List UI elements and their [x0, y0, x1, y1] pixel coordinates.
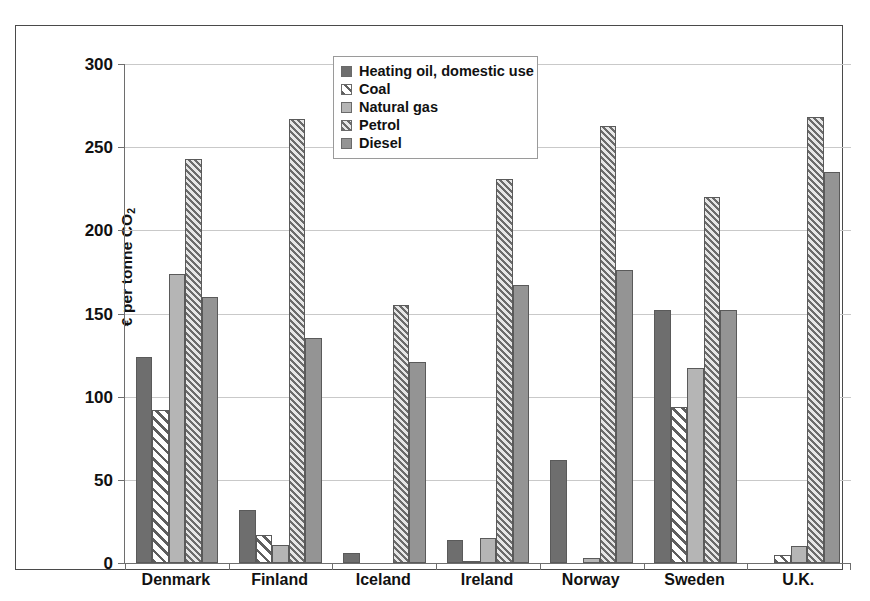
- x-axis-label: Norway: [539, 571, 643, 589]
- bar-heating: [136, 357, 153, 563]
- legend-swatch-heating-icon: [341, 66, 352, 77]
- legend-label: Coal: [359, 82, 390, 97]
- bar-diesel: [202, 297, 219, 563]
- y-axis-tick-label: 250: [85, 139, 113, 156]
- bar-gas: [791, 546, 808, 563]
- legend-item: Coal: [341, 80, 531, 98]
- x-axis-label: Ireland: [435, 571, 539, 589]
- y-axis-tick-label: 300: [85, 56, 113, 73]
- bar-heating: [550, 460, 567, 563]
- y-axis-tick-label: 100: [85, 388, 113, 405]
- bar-group: [540, 64, 644, 563]
- bar-coal: [774, 555, 791, 563]
- bar-group: [747, 64, 851, 563]
- bar-gas: [480, 538, 497, 563]
- bar-coal: [463, 561, 480, 563]
- legend-label: Petrol: [359, 118, 400, 133]
- bar-diesel: [720, 310, 737, 563]
- chart-figure: € per tonne CO2 300250200150100500 Denma…: [0, 0, 870, 601]
- bar-diesel: [616, 270, 633, 563]
- x-axis-labels: DenmarkFinlandIcelandIrelandNorwaySweden…: [124, 571, 850, 589]
- bar-heating: [239, 510, 256, 563]
- bar-gas: [272, 545, 289, 563]
- y-axis-tick-label: 0: [104, 555, 113, 572]
- x-axis-label: Denmark: [124, 571, 228, 589]
- bar-gas: [687, 368, 704, 563]
- bar-coal: [256, 535, 273, 563]
- legend-item: Diesel: [341, 134, 531, 152]
- bar-petrol: [393, 305, 410, 563]
- bar-petrol: [496, 179, 513, 563]
- y-axis-tick-label: 150: [85, 305, 113, 322]
- legend-item: Natural gas: [341, 98, 531, 116]
- bar-petrol: [807, 117, 824, 563]
- legend-item: Heating oil, domestic use: [341, 62, 531, 80]
- bar-diesel: [409, 362, 426, 563]
- y-axis-tick: [118, 230, 125, 231]
- bar-heating: [343, 553, 360, 563]
- legend-swatch-petrol-icon: [341, 120, 352, 131]
- chart-legend: Heating oil, domestic useCoalNatural gas…: [333, 56, 538, 159]
- legend-label: Heating oil, domestic use: [359, 64, 534, 79]
- y-axis-tick-label: 200: [85, 222, 113, 239]
- bar-petrol: [185, 159, 202, 563]
- legend-item: Petrol: [341, 116, 531, 134]
- legend-label: Natural gas: [359, 100, 438, 115]
- bar-petrol: [289, 119, 306, 563]
- y-axis-tick: [118, 480, 125, 481]
- bar-coal: [152, 410, 169, 563]
- bar-coal: [671, 407, 688, 563]
- bar-group: [229, 64, 333, 563]
- y-axis-tick: [118, 147, 125, 148]
- bar-petrol: [704, 197, 721, 563]
- bar-heating: [654, 310, 671, 563]
- bar-group: [644, 64, 748, 563]
- x-axis-label: Finland: [228, 571, 332, 589]
- bar-petrol: [600, 126, 617, 563]
- x-axis-label: U.K.: [746, 571, 850, 589]
- bar-gas: [583, 558, 600, 563]
- bar-diesel: [513, 285, 530, 563]
- bar-diesel: [824, 172, 841, 563]
- chart-frame: € per tonne CO2 300250200150100500 Denma…: [15, 25, 843, 570]
- bar-diesel: [305, 338, 322, 563]
- x-axis-label: Iceland: [331, 571, 435, 589]
- legend-swatch-coal-icon: [341, 84, 352, 95]
- x-axis-label: Sweden: [643, 571, 747, 589]
- legend-swatch-diesel-icon: [341, 138, 352, 149]
- y-axis-tick: [118, 397, 125, 398]
- bar-group: [125, 64, 229, 563]
- bar-heating: [447, 540, 464, 563]
- y-axis-tick: [118, 64, 125, 65]
- y-axis-tick: [118, 563, 125, 564]
- legend-label: Diesel: [359, 136, 402, 151]
- y-axis-tick-label: 50: [94, 471, 113, 488]
- bar-gas: [169, 274, 186, 563]
- y-axis-tick: [118, 314, 125, 315]
- legend-swatch-gas-icon: [341, 102, 352, 113]
